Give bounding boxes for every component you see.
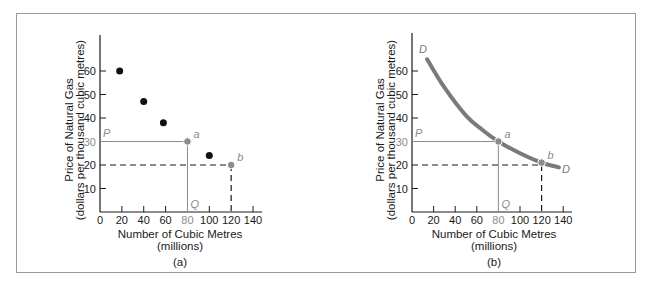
panel-b-titles: Number of Cubic Metres (millions) (b) Pr…	[374, 40, 557, 268]
panel-a-titles: Number of Cubic Metres (millions) (a) Pr…	[63, 40, 243, 268]
chart-text-layer: Number of Cubic Metres (millions) (a) Pr…	[0, 0, 654, 287]
panel-a-ylabel-sub: (dollars per thousand cubic metres)	[74, 40, 86, 220]
panel-b-xlabel: Number of Cubic Metres	[432, 228, 557, 240]
panel-b-ylabel-sub: (dollars per thousand cubic metres)	[385, 40, 397, 220]
panel-a-xlabel-sub: (millions)	[157, 240, 203, 252]
panel-a-xlabel: Number of Cubic Metres	[118, 228, 243, 240]
panel-b-xlabel-sub: (millions)	[471, 240, 517, 252]
panel-a-caption: (a)	[173, 256, 187, 268]
panel-b-caption: (b)	[487, 256, 501, 268]
